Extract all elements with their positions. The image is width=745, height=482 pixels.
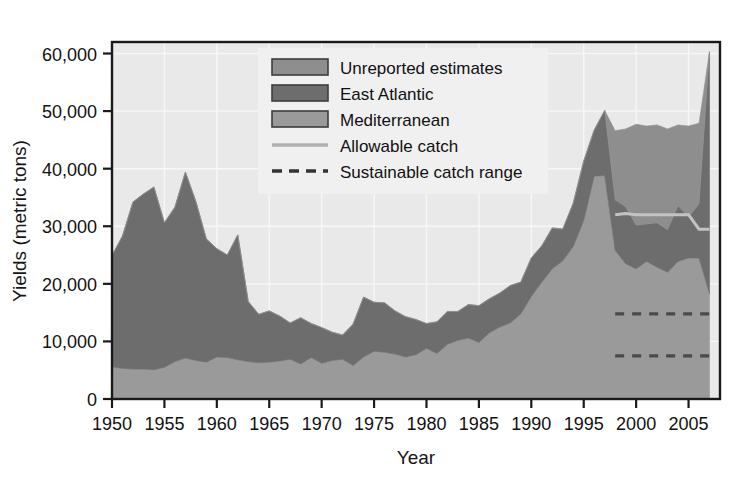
x-tick-label: 1985 xyxy=(459,414,499,434)
x-axis-label: Year xyxy=(397,447,436,468)
x-tick-label: 1975 xyxy=(354,414,394,434)
legend-label-mediterranean: Mediterranean xyxy=(340,111,450,130)
x-tick-label: 1970 xyxy=(302,414,342,434)
y-tick-label: 60,000 xyxy=(42,45,97,65)
y-tick-label: 0 xyxy=(87,390,97,410)
x-tick-label: 1995 xyxy=(564,414,604,434)
y-tick-label: 20,000 xyxy=(42,275,97,295)
chart-figure: 1950195519601965197019751980198519901995… xyxy=(0,0,745,482)
x-tick-label: 1950 xyxy=(92,414,132,434)
y-tick-label: 50,000 xyxy=(42,102,97,122)
x-tick-label: 1980 xyxy=(406,414,446,434)
legend-label-sustainable-catch-range: Sustainable catch range xyxy=(340,163,522,182)
x-tick-label: 2000 xyxy=(616,414,656,434)
x-tick-label: 2005 xyxy=(669,414,709,434)
y-axis-label: Yields (metric tons) xyxy=(9,140,30,302)
legend-label-east-atlantic: East Atlantic xyxy=(340,85,434,104)
chart-legend: Unreported estimatesEast AtlanticMediter… xyxy=(258,48,548,194)
legend-swatch-unreported-estimates xyxy=(272,59,328,75)
legend-swatch-mediterranean xyxy=(272,111,328,127)
legend-label-allowable-catch: Allowable catch xyxy=(340,137,458,156)
chart-canvas: 1950195519601965197019751980198519901995… xyxy=(0,0,745,482)
y-tick-label: 40,000 xyxy=(42,160,97,180)
legend-label-unreported-estimates: Unreported estimates xyxy=(340,59,503,78)
x-tick-label: 1955 xyxy=(144,414,184,434)
x-tick-label: 1990 xyxy=(511,414,551,434)
y-tick-label: 10,000 xyxy=(42,332,97,352)
x-tick-label: 1960 xyxy=(197,414,237,434)
legend-swatch-east-atlantic xyxy=(272,85,328,101)
x-tick-label: 1965 xyxy=(249,414,289,434)
y-tick-label: 30,000 xyxy=(42,217,97,237)
